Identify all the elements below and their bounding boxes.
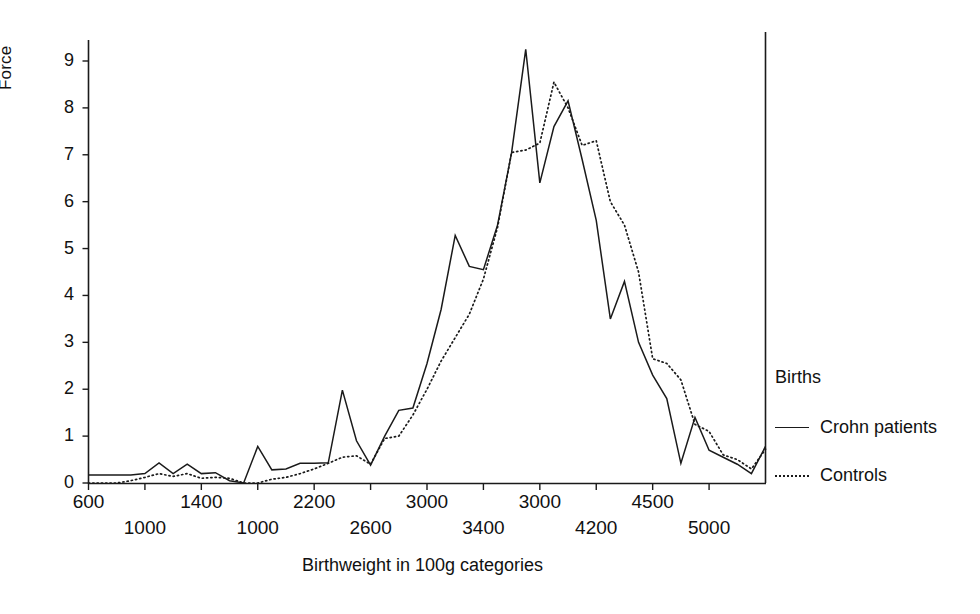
y-tick-label: 6 [48,192,74,210]
x-tick-label: 1000 [105,518,185,537]
legend-entry-crohn-patients: Crohn patients [775,417,937,438]
x-tick-label: 3000 [387,492,467,511]
y-tick-label: 7 [48,145,74,163]
y-tick-label: 0 [48,473,74,491]
y-tick-label: 2 [48,379,74,397]
chart-figure: Force 0123456789 60010001400100022002600… [0,0,980,614]
y-tick-label: 1 [48,426,74,444]
y-tick-label: 8 [48,98,74,116]
legend-entry-controls: Controls [775,465,887,486]
x-axis-title: Birthweight in 100g categories [0,555,845,576]
y-tick-label: 9 [48,51,74,69]
x-tick-label: 4500 [613,492,693,511]
axis-lines [89,32,767,484]
y-tick-label: 5 [48,239,74,257]
y-tick-label: 4 [48,285,74,303]
legend-swatch-dotted-icon [775,475,809,477]
series-line-crohn-patients [89,49,766,483]
x-tick-label: 3000 [500,492,580,511]
x-tick-label: 1000 [218,518,298,537]
x-tick-label: 2200 [274,492,354,511]
legend-label-crohn-patients: Crohn patients [820,417,937,438]
x-tick-label: 2600 [331,518,411,537]
series-line-controls [89,82,766,483]
legend-label-controls: Controls [820,465,887,486]
y-axis-title: Force [0,0,16,90]
x-tick-label: 4200 [556,518,636,537]
x-tick-label: 5000 [669,518,749,537]
x-tick-label: 3400 [443,518,523,537]
x-tick-label: 1400 [161,492,241,511]
y-axis-ticks [83,61,89,483]
x-tick-label: 600 [49,492,129,511]
y-tick-label: 3 [48,332,74,350]
legend-title: Births [775,367,821,388]
legend-swatch-solid-icon [775,427,809,428]
